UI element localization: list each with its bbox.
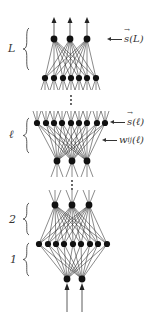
neuron-node [84, 120, 90, 126]
neuron-node [51, 75, 57, 81]
neuron-node [102, 120, 108, 126]
neuron-node [61, 241, 67, 247]
neuron-nodes [34, 36, 110, 283]
neuron-node [43, 120, 49, 126]
neuron-node [93, 75, 99, 81]
neuron-node [42, 75, 48, 81]
annotation-s-L: s(L) [110, 34, 144, 44]
annotation-arg: (ℓ) [132, 135, 144, 145]
annotation-arg: (L) [129, 34, 143, 44]
neuron-node [68, 120, 74, 126]
neuron-node [70, 241, 76, 247]
input-arrow-icon [80, 283, 85, 290]
neuron-node [52, 202, 59, 209]
neuron-node [104, 241, 110, 247]
neuron-node [84, 36, 91, 43]
annotation-s-l: s(ℓ) [113, 117, 144, 127]
neuron-node [94, 120, 100, 126]
layer-label-l: ℓ [9, 129, 14, 140]
neuron-node [95, 241, 101, 247]
neuron-node [84, 158, 91, 165]
neuron-node [60, 75, 66, 81]
layer-braces [23, 28, 29, 276]
partial-connection-stubs [33, 78, 109, 205]
neuron-node [59, 120, 65, 126]
neuron-node [79, 276, 86, 283]
neuron-node [76, 75, 82, 81]
neural-network-diagram [0, 0, 164, 318]
neuron-node [69, 158, 76, 165]
output-arrow-icon [52, 17, 57, 23]
curly-brace-icon [23, 28, 29, 70]
neuron-node [76, 120, 82, 126]
curly-brace-icon [23, 203, 29, 235]
neuron-node [64, 276, 71, 283]
vector-symbol: s [124, 34, 129, 44]
annotation-w-ij-l: wij(ℓ) [105, 135, 144, 145]
neuron-node [51, 36, 58, 43]
curly-brace-icon [23, 118, 29, 153]
output-arrow-icon [85, 17, 90, 23]
neuron-node [34, 120, 40, 126]
neuron-node [68, 75, 74, 81]
vector-symbol: s [127, 117, 132, 127]
left-arrow-icon [113, 122, 125, 123]
neuron-node [36, 241, 42, 247]
layer-label-2: 2 [9, 214, 16, 225]
neuron-node [87, 241, 93, 247]
curly-brace-icon [23, 243, 29, 276]
annotation-arg: (ℓ) [132, 117, 144, 127]
neuron-node [84, 75, 90, 81]
neuron-node [53, 241, 59, 247]
layer-label-1: 1 [10, 254, 17, 265]
neuron-node [51, 120, 57, 126]
neuron-node [78, 241, 84, 247]
layer-label-L: L [8, 43, 15, 54]
neuron-node [54, 158, 61, 165]
neuron-node [45, 241, 51, 247]
output-arrow-icon [68, 17, 73, 23]
neuron-node [69, 202, 76, 209]
left-arrow-icon [105, 140, 117, 141]
input-arrow-icon [65, 283, 70, 290]
left-arrow-icon [110, 39, 122, 40]
neuron-node [86, 202, 93, 209]
neuron-node [67, 36, 74, 43]
weight-symbol: w [119, 135, 128, 145]
